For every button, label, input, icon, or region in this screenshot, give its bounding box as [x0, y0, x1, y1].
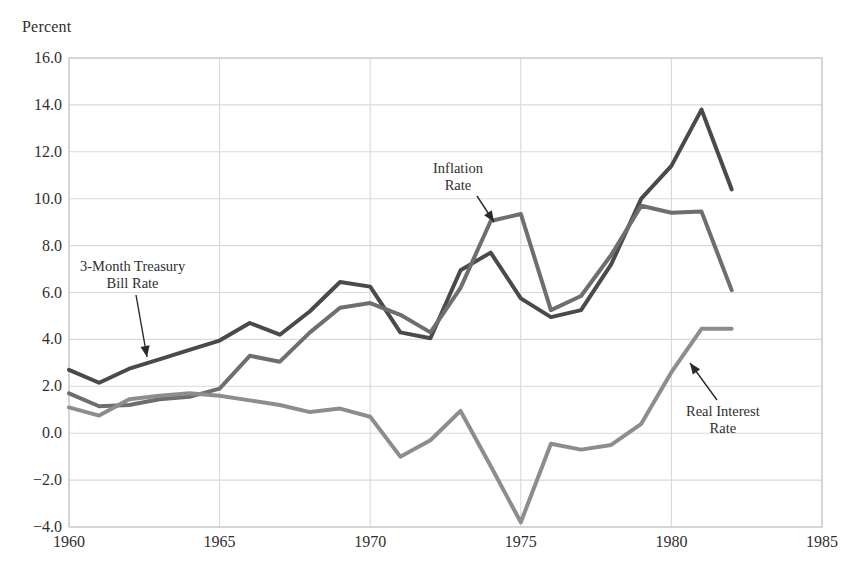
- y-tick-label: 8.0: [4, 237, 62, 255]
- x-tick-label: 1970: [354, 533, 386, 551]
- y-tick-label: 4.0: [4, 330, 62, 348]
- y-tick-label: 10.0: [4, 190, 62, 208]
- x-tick-label: 1985: [806, 533, 838, 551]
- x-tick-label: 1960: [53, 533, 85, 551]
- tbill-annotation: 3-Month TreasuryBill Rate: [80, 258, 185, 292]
- y-tick-label: 14.0: [4, 96, 62, 114]
- annotation-line-1: 3-Month Treasury: [80, 258, 185, 275]
- y-tick-label: 0.0: [4, 424, 62, 442]
- annotation-line-2: Rate: [433, 177, 483, 194]
- y-tick-label: 12.0: [4, 143, 62, 161]
- inflation-annotation: InflationRate: [433, 160, 483, 194]
- x-tick-label: 1975: [505, 533, 537, 551]
- y-axis-tick-labels: −4.0−2.00.02.04.06.08.010.012.014.016.0: [0, 0, 62, 577]
- x-tick-label: 1965: [204, 533, 236, 551]
- interest-rate-chart: Percent −4.0−2.00.02.04.06.08.010.012.01…: [0, 0, 851, 577]
- annotation-line-2: Rate: [686, 420, 760, 437]
- real-rate-annotation: Real InterestRate: [686, 403, 760, 437]
- annotation-line-1: Inflation: [433, 160, 483, 177]
- x-tick-label: 1980: [655, 533, 687, 551]
- y-tick-label: 16.0: [4, 49, 62, 67]
- y-tick-label: −2.0: [4, 471, 62, 489]
- annotation-line-1: Real Interest: [686, 403, 760, 420]
- y-tick-label: 2.0: [4, 377, 62, 395]
- y-tick-label: 6.0: [4, 284, 62, 302]
- annotation-line-2: Bill Rate: [80, 275, 185, 292]
